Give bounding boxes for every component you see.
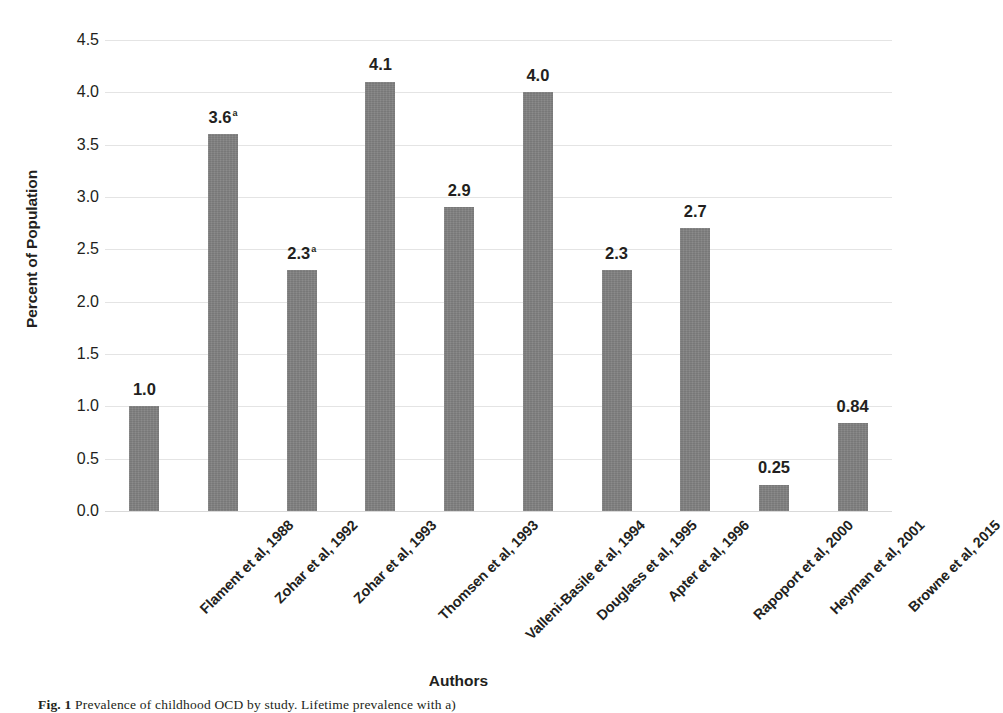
bar-value-label: 0.25 — [758, 459, 790, 476]
bar-value-label: 4.0 — [526, 67, 549, 84]
y-axis-tick-label: 3.0 — [43, 188, 99, 206]
bar[interactable] — [444, 207, 474, 511]
bar-group[interactable]: 4.0 — [499, 40, 578, 511]
bar-value-label: 2.7 — [684, 203, 707, 220]
x-axis-title: Authors — [0, 672, 917, 690]
y-axis-tick-label: 0.0 — [43, 502, 99, 520]
bar-value-label: 2.9 — [448, 182, 471, 199]
gridline — [105, 511, 892, 512]
bar-value-label: 2.3a — [287, 245, 316, 262]
y-axis-tick-label: 2.5 — [43, 240, 99, 258]
bar-value-label: 2.3 — [605, 245, 628, 262]
bar-value-label: 1.0 — [133, 381, 156, 398]
bar[interactable] — [287, 270, 317, 511]
caption-text: Prevalence of childhood OCD by study. Li… — [75, 697, 456, 712]
y-axis-tick-label: 2.0 — [43, 293, 99, 311]
y-axis-tick-label: 3.5 — [43, 136, 99, 154]
bar[interactable] — [129, 406, 159, 511]
footnote-marker: a — [232, 108, 237, 118]
bar[interactable] — [759, 485, 789, 511]
bar[interactable] — [838, 423, 868, 511]
x-axis-category-label: Douglass et al, 1995 — [593, 517, 699, 623]
footnote-marker: a — [311, 244, 316, 254]
bar-group[interactable]: 4.1 — [341, 40, 420, 511]
x-axis-category-label: Thomsen et al, 1993 — [436, 517, 542, 623]
bar-group[interactable]: 2.3a — [262, 40, 341, 511]
bar-value-label: 0.84 — [837, 398, 869, 415]
bar-group[interactable]: 2.9 — [420, 40, 499, 511]
bar-group[interactable]: 0.25 — [735, 40, 814, 511]
bar-group[interactable]: 3.6a — [184, 40, 263, 511]
bar-group[interactable]: 0.84 — [813, 40, 892, 511]
y-axis-tick-label: 0.5 — [43, 450, 99, 468]
bar[interactable] — [602, 270, 632, 511]
bar-value-label: 4.1 — [369, 56, 392, 73]
figure-caption: Fig. 1 Prevalence of childhood OCD by st… — [38, 697, 883, 713]
x-axis-category-label: Zohar et al, 1993 — [350, 517, 439, 606]
plot-area: 0.00.51.01.52.02.53.03.54.04.5 1.03.6a2.… — [105, 40, 892, 511]
bar[interactable] — [523, 92, 553, 511]
caption-figure-number: Fig. 1 — [38, 697, 71, 712]
y-axis-title: Percent of Population — [23, 149, 41, 349]
bar-group[interactable]: 1.0 — [105, 40, 184, 511]
y-axis-tick-label: 4.0 — [43, 83, 99, 101]
bar[interactable] — [365, 82, 395, 511]
y-axis-tick-label: 4.5 — [43, 31, 99, 49]
bar[interactable] — [208, 134, 238, 511]
y-axis-tick-label: 1.0 — [43, 397, 99, 415]
bar-value-label: 3.6a — [209, 109, 238, 126]
bar[interactable] — [680, 228, 710, 511]
y-axis-tick-label: 1.5 — [43, 345, 99, 363]
bar-group[interactable]: 2.7 — [656, 40, 735, 511]
bar-group[interactable]: 2.3 — [577, 40, 656, 511]
